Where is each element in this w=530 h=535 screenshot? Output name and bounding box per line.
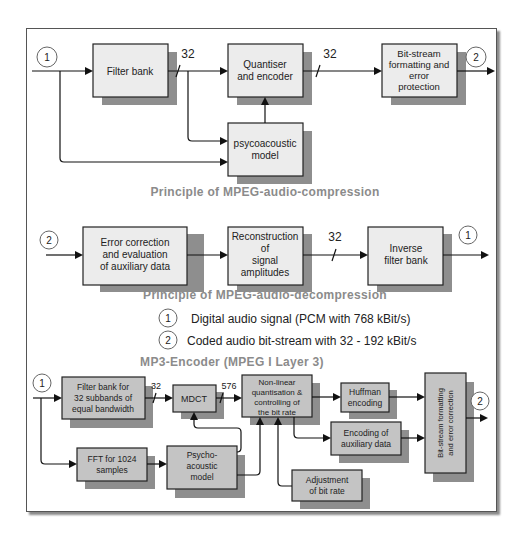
nonlinear-label-1: Non-linear: [259, 378, 296, 387]
enc-filter-bank-label-2: 32 subbands of: [74, 393, 133, 403]
decompression-section: 2 Error correction and evaluation of aux…: [40, 226, 489, 302]
bitstream-label-1: Bit-stream: [397, 48, 440, 59]
huffman-label-2: encoding: [348, 398, 383, 408]
inverse-filter-label-1: Inverse: [390, 243, 423, 254]
nonlinear-label-2: quantisation &: [252, 388, 303, 397]
enc-bitstream-label-1: Bit-stream formatting: [436, 388, 445, 458]
psycho-label-1: psycoacoustic: [234, 138, 297, 149]
inverse-filter-label-2: filter bank: [384, 255, 428, 266]
enc-filter-bank-label-1: Filter bank for: [77, 382, 129, 392]
legend-text-2: Coded audio bit-stream with 32 - 192 kBi…: [187, 334, 416, 348]
enc-psycho-label-3: model: [190, 472, 213, 482]
encoder-title: MP3-Encoder (MPEG I Layer 3): [140, 355, 324, 369]
aux-label-2: auxiliary data: [341, 439, 391, 449]
filter-bank-label: Filter bank: [107, 66, 155, 77]
legend-marker-1: 1: [165, 313, 171, 324]
mdct-label: MDCT: [181, 394, 207, 404]
bitstream-label-3: error: [409, 70, 429, 81]
legend: 1 Digital audio signal (PCM with 768 kBi…: [159, 309, 416, 349]
nonlinear-label-4: the bit rate: [258, 408, 296, 417]
error-correction-label-2: and evaluation: [102, 249, 167, 260]
legend-text-1: Digital audio signal (PCM with 768 kBit/…: [191, 312, 410, 326]
enc-bitstream-label-2: and error correction: [446, 390, 455, 455]
enc-filter-bank-label-3: equal bandwidth: [72, 404, 134, 414]
fft-label-1: FFT for 1024: [88, 454, 137, 464]
quantiser-label-1: Quantiser: [243, 59, 287, 70]
enc-bus-label-32: 32: [151, 381, 161, 391]
reconstruction-label-2: of: [261, 243, 270, 254]
output-marker: 2: [473, 52, 479, 63]
adjustment-label-1: Adjustment: [306, 475, 349, 485]
bus-label-32-a: 32: [181, 47, 195, 61]
mpeg-audio-diagram: 1 Filter bank Quantiser and encoder psyc…: [0, 0, 530, 535]
encoder-section: MP3-Encoder (MPEG I Layer 3) 1 Filter ba…: [33, 355, 489, 509]
reconstruction-label-4: amplitudes: [241, 267, 289, 278]
decomp-input-marker: 2: [46, 235, 52, 246]
quantiser-label-2: and encoder: [237, 71, 293, 82]
bus-label-32-b: 32: [323, 47, 337, 61]
error-correction-label-3: of auxiliary data: [100, 261, 170, 272]
psycho-label-2: model: [251, 150, 278, 161]
legend-marker-2: 2: [165, 335, 171, 346]
enc-bus-label-576: 576: [221, 381, 236, 391]
compression-title: Principle of MPEG-audio-compression: [150, 185, 379, 199]
decompression-title: Principle of MPEG-audio-decompression: [143, 288, 387, 302]
bitstream-label-2: formatting and: [389, 59, 450, 70]
enc-psycho-label-2: acoustic: [186, 461, 218, 471]
enc-input-marker: 1: [39, 378, 45, 389]
enc-psycho-label-1: Psycho-: [187, 450, 218, 460]
error-correction-label-1: Error correction: [101, 237, 170, 248]
nonlinear-label-3: controlling of: [254, 398, 300, 407]
reconstruction-label-1: Reconstruction: [232, 231, 299, 242]
compression-section: 1 Filter bank Quantiser and encoder psyc…: [32, 44, 495, 199]
huffman-label-1: Huffman: [349, 387, 381, 397]
reconstruction-label-3: signal: [252, 255, 278, 266]
decomp-bus-label: 32: [328, 230, 342, 244]
aux-label-1: Encoding of: [344, 428, 390, 438]
fft-label-2: samples: [96, 465, 128, 475]
enc-output-marker: 2: [477, 396, 483, 407]
input-marker: 1: [44, 52, 50, 63]
bitstream-label-4: protection: [398, 81, 440, 92]
adjustment-label-2: of bit rate: [309, 486, 345, 496]
decomp-output-marker: 1: [465, 230, 471, 241]
